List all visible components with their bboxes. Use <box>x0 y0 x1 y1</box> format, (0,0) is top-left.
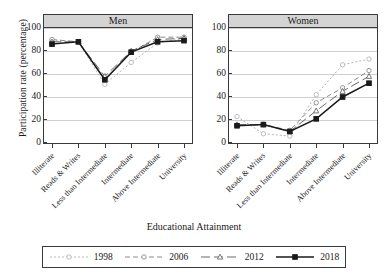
y-tick-label: 80 <box>32 45 42 55</box>
data-point-2018 <box>367 81 372 86</box>
data-point-2018 <box>340 95 345 100</box>
data-point-2018 <box>288 129 293 134</box>
y-tick-mark <box>43 27 47 28</box>
data-point-1998 <box>103 82 107 86</box>
data-point-1998 <box>288 134 292 138</box>
legend-swatch-1998 <box>49 251 89 263</box>
y-tick-mark <box>43 73 47 74</box>
series-line-1998 <box>52 38 184 84</box>
legend-label-2018: 2018 <box>318 252 339 262</box>
x-tick-mark <box>52 144 53 148</box>
series-group <box>44 28 192 143</box>
legend-swatch-2012 <box>200 251 240 263</box>
x-axis-title: Educational Attainment <box>0 221 388 232</box>
panel-men-title: Men <box>43 14 193 28</box>
legend-label-2012: 2012 <box>243 252 264 262</box>
series-line-2018 <box>237 83 369 131</box>
y-tick-mark <box>43 50 47 51</box>
data-point-1998 <box>314 93 318 97</box>
series-line-2012 <box>52 38 184 76</box>
data-point-2006 <box>367 68 371 72</box>
x-tick-mark <box>290 144 291 148</box>
y-tick-label: 60 <box>32 68 42 78</box>
data-point-1998 <box>261 132 265 136</box>
chart-figure: Participation rate (percentage) Men 0204… <box>0 0 388 277</box>
panel-women-title: Women <box>228 14 378 28</box>
legend-swatch-2018 <box>275 251 315 263</box>
data-point-2006 <box>314 101 318 105</box>
data-point-1998 <box>340 63 344 67</box>
series-line-2012 <box>237 76 369 131</box>
data-point-1998 <box>235 114 239 118</box>
legend-swatch-2006 <box>124 251 164 263</box>
y-tick-label: 20 <box>217 114 227 124</box>
data-point-2018 <box>314 117 319 122</box>
x-axis-labels-women: IlliterateReads & WritesLess than Interm… <box>228 149 378 217</box>
y-tick-mark <box>228 27 232 28</box>
panel-men: Men <box>43 14 193 144</box>
data-point-2012 <box>366 74 371 79</box>
x-axis-labels-men: IlliterateReads & WritesLess than Interm… <box>43 149 193 217</box>
x-tick-mark <box>158 144 159 148</box>
data-point-1998 <box>129 60 133 64</box>
y-tick-label: 40 <box>217 91 227 101</box>
y-tick-mark <box>228 50 232 51</box>
y-tick-label: 100 <box>27 22 41 32</box>
legend-label-2006: 2006 <box>167 252 188 262</box>
y-tick-mark <box>43 96 47 97</box>
y-tick-label: 60 <box>217 68 227 78</box>
y-tick-mark <box>228 73 232 74</box>
data-point-2018 <box>235 123 240 128</box>
panel-women: Women <box>228 14 378 144</box>
x-tick-mark <box>78 144 79 148</box>
y-tick-label: 20 <box>32 114 42 124</box>
data-point-2018 <box>50 42 55 47</box>
panel-men-plot-area <box>43 27 193 144</box>
x-tick-mark <box>343 144 344 148</box>
data-point-2012 <box>314 108 319 113</box>
x-tick-mark <box>316 144 317 148</box>
y-tick-label: 0 <box>36 137 41 147</box>
data-point-2018 <box>155 40 160 45</box>
y-tick-mark <box>228 119 232 120</box>
legend-item-2012[interactable]: 2012 <box>200 251 264 263</box>
data-point-2018 <box>76 40 81 45</box>
data-point-2018 <box>261 122 266 127</box>
y-tick-label: 0 <box>221 137 226 147</box>
series-group <box>229 28 377 143</box>
data-point-1998 <box>367 57 371 61</box>
y-tick-label: 100 <box>212 22 226 32</box>
x-tick-mark <box>263 144 264 148</box>
x-tick-mark <box>237 144 238 148</box>
y-tick-label: 80 <box>217 45 227 55</box>
data-point-2018 <box>103 77 108 82</box>
legend-item-2006[interactable]: 2006 <box>124 251 188 263</box>
legend-item-1998[interactable]: 1998 <box>49 251 113 263</box>
legend-item-2018[interactable]: 2018 <box>275 251 339 263</box>
legend: 1998200620122018 <box>42 246 346 268</box>
data-point-2018 <box>182 38 187 43</box>
panel-women-plot-area <box>228 27 378 144</box>
y-tick-mark <box>43 119 47 120</box>
legend-label-1998: 1998 <box>92 252 113 262</box>
x-tick-mark <box>131 144 132 148</box>
x-tick-mark <box>105 144 106 148</box>
x-tick-mark <box>369 144 370 148</box>
y-tick-mark <box>228 142 232 143</box>
data-point-2018 <box>129 50 134 55</box>
y-tick-mark <box>43 142 47 143</box>
y-tick-mark <box>228 96 232 97</box>
y-tick-label: 40 <box>32 91 42 101</box>
x-tick-mark <box>184 144 185 148</box>
